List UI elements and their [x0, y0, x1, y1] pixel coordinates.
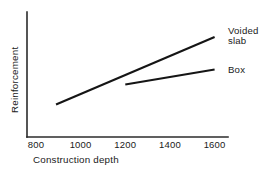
x-axis-title: Construction depth: [33, 154, 119, 165]
series-line-voided-slab: [56, 37, 215, 105]
series-line-box: [125, 70, 214, 85]
series-label-box: Box: [228, 64, 245, 75]
x-tick-label: 1000: [70, 139, 92, 150]
series-label-voided-slab-line2: slab: [228, 35, 246, 46]
chart-figure: 800 1000 1200 1400 1600 Construction dep…: [0, 0, 269, 178]
x-tick-label: 1400: [159, 139, 181, 150]
y-axis-title: Reinforcement: [9, 47, 20, 113]
chart-canvas: 800 1000 1200 1400 1600 Construction dep…: [0, 0, 269, 178]
x-tick-label: 800: [28, 139, 44, 150]
x-tick-label: 1600: [204, 139, 226, 150]
x-tick-label: 1200: [114, 139, 136, 150]
